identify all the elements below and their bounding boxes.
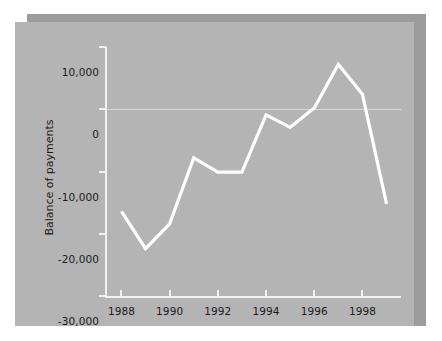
y-axis-tick-label: -30,000 [58,315,99,327]
figure-root: Balance of payments 10,0000-10,000-20,00… [0,0,442,341]
y-axis-tick-labels: 10,0000-10,000-20,000-30,000 [25,47,99,322]
y-axis-tick-label: 10,000 [62,66,99,78]
plot-area: 198819901992199419961998 [105,47,401,322]
series-polyline [121,64,386,248]
y-axis-tick-label: -20,000 [58,253,99,265]
y-axis-tick-label: -10,000 [58,191,99,203]
y-axis-tick-label: 0 [92,128,99,140]
data-series-balance-of-payments [105,47,401,322]
chart-panel: Balance of payments 10,0000-10,000-20,00… [15,22,414,326]
